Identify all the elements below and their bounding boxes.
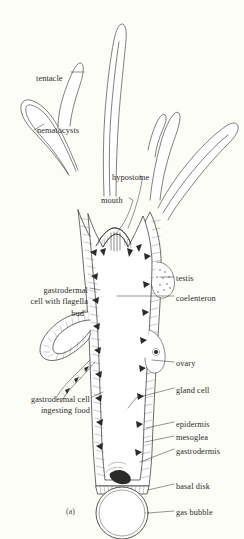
label-line: gastrodermal cell	[0, 394, 90, 405]
label-ovary: ovary	[176, 358, 195, 369]
label-gland-cell: gland cell	[176, 385, 209, 396]
label-hypostome: hypostome	[112, 172, 149, 183]
label-line: cell with flagella	[0, 296, 88, 307]
label-basal-disk: basal disk	[176, 481, 210, 492]
leader-basal-disk	[148, 484, 174, 490]
label-gastrodermal-cell-ingesting-food: gastrodermal cellingesting food	[0, 394, 90, 416]
label-testis: testis	[176, 273, 194, 284]
label-bud: bud	[0, 308, 84, 319]
leader-gas-bubble	[148, 511, 174, 513]
label-gastrodermis: gastrodermis	[176, 446, 220, 457]
bud	[40, 312, 90, 361]
label-nematocysts: nematocysts	[37, 125, 79, 136]
label-line: ingesting food	[0, 405, 90, 416]
label-coelenteron: coelenteron	[176, 293, 216, 304]
label-gastrodermal-cell-with-flagella: gastrodermalcell with flagella	[0, 285, 88, 307]
label-tentacle: tentacle	[36, 73, 63, 84]
label-mesoglea: mesoglea	[176, 432, 208, 443]
gas-bubble	[96, 487, 148, 539]
label-epidermis: epidermis	[176, 419, 210, 430]
label-mouth: mouth	[101, 195, 123, 206]
tentacle-group	[21, 24, 238, 220]
label-line: gastrodermal	[0, 285, 88, 296]
figure-caption: (a)	[66, 507, 75, 516]
label-gas-bubble: gas bubble	[176, 507, 213, 518]
